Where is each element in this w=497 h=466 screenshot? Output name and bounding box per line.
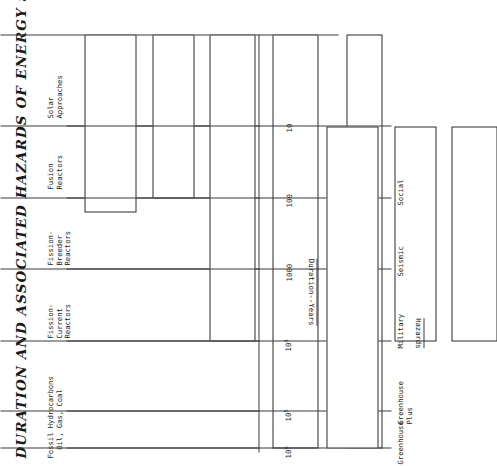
hazard-label-greenhouse-plus: Greenhouse Plus (396, 381, 413, 424)
hazard-label-military: Military (396, 313, 405, 348)
row-label-fission-breeder: Fission- Breeder Reactors (46, 195, 72, 265)
axis-baseline (258, 34, 259, 452)
hazard-label-greenhouse: Greenhouse (396, 421, 405, 464)
bar-fusion (272, 34, 318, 448)
ticklabel-1000: 1000 (284, 263, 293, 281)
bar-fission-current (152, 34, 194, 198)
bar-fossil (84, 34, 136, 212)
hazard-bar-fossil (326, 126, 378, 448)
row-label-fission-current: Fission- Current Reactors (46, 268, 72, 338)
row-label-fusion: Fusion Reactors (46, 127, 63, 189)
ticklabel-100: 100 (284, 194, 293, 207)
hazard-label-seismic: Seismic (396, 246, 405, 276)
page-title: DURATION AND ASSOCIATED HAZARDS OF ENERG… (12, 0, 28, 458)
hazard-bar-fission-breeder (451, 126, 497, 341)
bar-fission-breeder (209, 34, 255, 341)
ticklabel-10: 10 (284, 123, 293, 132)
row-label-solar: Solar Approaches (46, 48, 63, 118)
duration-plot (78, 0, 274, 466)
hazard-label-social: Social (396, 179, 405, 205)
hazards-axis-title: Hazards (413, 318, 424, 348)
row-label-fossil: Fossil Hydrocarbons Oil, Gas, Coal (46, 346, 63, 458)
hazard-bar-fission-current (394, 126, 436, 341)
